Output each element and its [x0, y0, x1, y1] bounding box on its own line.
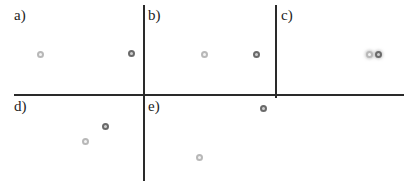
panel-b-light-dot	[201, 51, 208, 58]
panel-d-light-dot	[82, 138, 89, 145]
panel-e-dark-dot	[260, 105, 267, 112]
panel-c-dark-dot	[375, 51, 382, 58]
panel-label-d: d)	[14, 99, 27, 114]
panel-label-c: c)	[281, 8, 293, 23]
panel-label-a: a)	[14, 8, 26, 23]
vertical-divider-right	[275, 5, 277, 97]
panel-c-light-dot	[366, 51, 373, 58]
panel-a-light-dot	[37, 51, 44, 58]
panel-label-b: b)	[148, 8, 161, 23]
vertical-divider-right-lower	[275, 95, 277, 98]
panel-e-light-dot	[196, 154, 203, 161]
panel-d-dark-dot	[102, 123, 109, 130]
horizontal-divider	[14, 94, 404, 96]
panel-a-dark-dot	[128, 50, 135, 57]
panel-b-dark-dot	[253, 51, 260, 58]
panel-label-e: e)	[148, 99, 160, 114]
vertical-divider-left	[143, 5, 145, 181]
